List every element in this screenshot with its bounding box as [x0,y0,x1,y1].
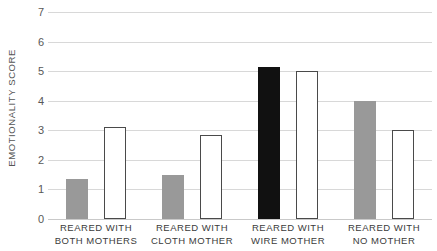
bar-4-first-bar [354,101,376,219]
bar-2-first-bar [162,175,184,219]
bar-group-3 [240,12,336,219]
y-tick-label-1: 1 [24,183,44,195]
bar-2-second-bar [200,135,222,219]
y-tick-label-2: 2 [24,154,44,166]
y-tick-label-6: 6 [24,36,44,48]
bar-group-1 [48,12,144,219]
y-axis-title-text: EMOTIONALITY SCORE [6,49,17,167]
x-category-label-line2: BOTH MOTHERS [48,234,144,247]
x-category-label-line1: REARED WITH [144,221,240,234]
x-category-label-1: REARED WITHBOTH MOTHERS [48,221,144,247]
y-tick-label-0: 0 [24,213,44,225]
bars-layer [48,12,432,219]
bar-1-second-bar [104,127,126,219]
y-tick-label-4: 4 [24,95,44,107]
y-axis-tick-labels: 01234567 [24,12,44,219]
x-category-label-line1: REARED WITH [48,221,144,234]
x-category-label-line2: NO MOTHER [336,234,432,247]
bar-3-first-bar [258,67,280,219]
emotionality-score-bar-chart: EMOTIONALITY SCORE 01234567 REARED WITHB… [0,0,437,251]
x-category-label-line2: WIRE MOTHER [240,234,336,247]
bar-1-first-bar [66,179,88,219]
x-category-label-3: REARED WITHWIRE MOTHER [240,221,336,247]
bar-4-second-bar [392,130,414,219]
bar-group-4 [336,12,432,219]
x-category-label-line1: REARED WITH [240,221,336,234]
gridline-0 [48,219,432,220]
bar-3-second-bar [296,71,318,219]
x-category-label-line2: CLOTH MOTHER [144,234,240,247]
x-axis-category-labels: REARED WITHBOTH MOTHERSREARED WITHCLOTH … [48,221,432,251]
y-tick-label-5: 5 [24,65,44,77]
bar-group-2 [144,12,240,219]
plot-area [48,12,432,219]
y-tick-label-7: 7 [24,6,44,18]
y-axis-title: EMOTIONALITY SCORE [0,0,22,215]
y-tick-label-3: 3 [24,124,44,136]
x-category-label-2: REARED WITHCLOTH MOTHER [144,221,240,247]
x-category-label-4: REARED WITHNO MOTHER [336,221,432,247]
x-category-label-line1: REARED WITH [336,221,432,234]
